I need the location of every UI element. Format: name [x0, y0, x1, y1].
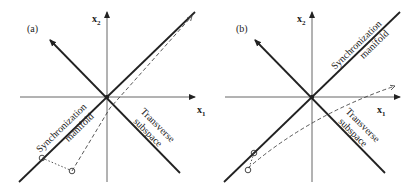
trajectory-dashed — [72, 16, 192, 171]
manifold-label: Synchronization manifold — [34, 101, 97, 163]
perturbed-point-circle — [245, 167, 251, 173]
panel-label: (b) — [236, 23, 248, 35]
origin-point — [310, 95, 314, 99]
x1-label: x1 — [197, 104, 206, 118]
perturbation-dotted — [42, 158, 70, 170]
transverse-subspace-arrow — [50, 40, 180, 173]
panel-a: (a) x2 x1 Synchronization manifold Trans… — [19, 12, 206, 182]
origin-point — [105, 95, 109, 99]
x2-label: x2 — [297, 13, 306, 27]
panel-label: (a) — [27, 23, 38, 35]
x2-label: x2 — [92, 13, 101, 27]
diagram-canvas: (a) x2 x1 Synchronization manifold Trans… — [0, 0, 420, 190]
panel-b: (b) x2 x1 Synchronization manifold Trans… — [224, 12, 400, 182]
x1-label: x1 — [377, 104, 386, 118]
